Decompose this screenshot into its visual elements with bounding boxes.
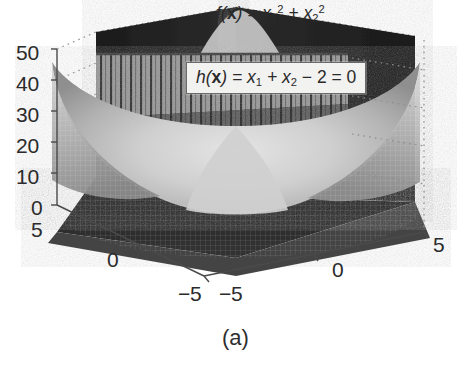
constraint-tail: − 2 = 0 — [297, 67, 356, 87]
constraint-annotation-box: h(x) = x1 + x2 − 2 = 0 — [186, 62, 366, 94]
figure-panel: 50 40 30 20 10 0 5 0 −5 −5 0 5 f(x) = x1… — [0, 0, 471, 368]
objective-sup-2: 2 — [318, 3, 324, 15]
y-tick-minus-5: −5 — [219, 283, 242, 304]
objective-function-label: f(x) = x12 + x22 — [216, 5, 325, 23]
objective-mid: ) = x — [236, 3, 271, 23]
objective-prefix: f( — [216, 3, 227, 23]
x-tick-5: 5 — [31, 219, 42, 240]
surface-plot-3d — [0, 0, 471, 368]
z-tick-50: 50 — [16, 42, 39, 63]
constraint-plus: + x — [262, 67, 291, 87]
figure-caption: (a) — [0, 325, 471, 351]
objective-bold-x: x — [227, 3, 237, 23]
z-tick-10: 10 — [16, 166, 39, 187]
y-tick-5: 5 — [433, 234, 444, 255]
objective-plus: + x — [283, 3, 312, 23]
constraint-mid: ) = x — [221, 67, 256, 87]
constraint-bold-x: x — [212, 67, 222, 87]
constraint-function-label: h(x) = x1 + x2 − 2 = 0 — [196, 67, 356, 87]
y-tick-0: 0 — [332, 259, 343, 280]
x-tick-0: 0 — [107, 249, 118, 270]
x-tick-minus-5: −5 — [178, 283, 201, 304]
z-tick-30: 30 — [16, 104, 39, 125]
z-tick-40: 40 — [16, 73, 39, 94]
z-tick-0: 0 — [31, 197, 42, 218]
z-tick-20: 20 — [16, 135, 39, 156]
constraint-prefix: h( — [196, 67, 212, 87]
